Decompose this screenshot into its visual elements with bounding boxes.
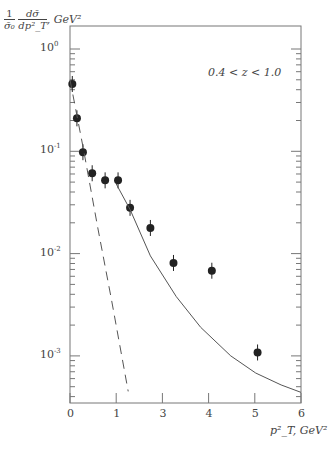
y-axis-ticks [70, 49, 301, 397]
y-tick-label: 10-2 [40, 245, 61, 259]
x-tick-label: 6 [298, 407, 305, 420]
ylabel-num1: 1 [4, 8, 15, 20]
ylabel-den1: σ̄₀ [4, 20, 15, 31]
x-tick-label: 4 [206, 407, 213, 420]
ylabel-unit: , GeV² [47, 13, 82, 26]
y-axis-label: 1σ̄₀ dσ̄dp²_T, GeV² [4, 8, 81, 31]
x-tick-label: 5 [252, 407, 259, 420]
y-tick-label: 10-1 [40, 142, 61, 156]
x-tick-label: 1 [113, 407, 120, 420]
chart-canvas [0, 0, 333, 452]
plot-series [68, 76, 301, 392]
y-tick-label: 100 [40, 40, 58, 54]
z-range-annotation: 0.4 < z < 1.0 [208, 66, 281, 79]
y-tick-label: 10-3 [40, 347, 61, 361]
x-axis-label: p²_T, GeV² [270, 424, 327, 437]
x-tick-label: 3 [159, 407, 166, 420]
axes-frame [70, 26, 301, 403]
x-axis-ticks [70, 393, 301, 403]
ylabel-den2: dp²_T [18, 20, 46, 31]
ylabel-num2: dσ̄ [18, 8, 46, 20]
x-tick-label: 0 [67, 407, 74, 420]
